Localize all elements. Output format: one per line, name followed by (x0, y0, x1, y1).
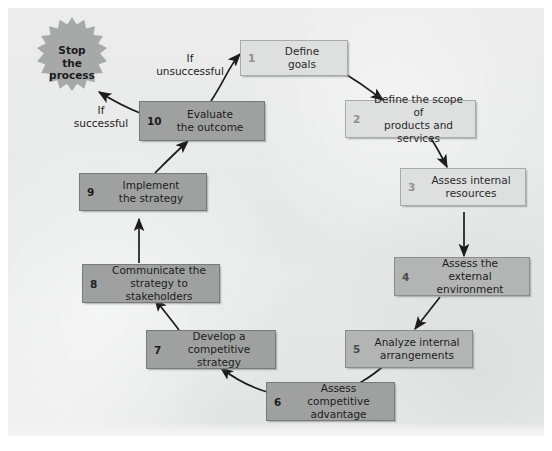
node-2[interactable]: 2 Define the scope of products and servi… (345, 100, 476, 138)
edge-label-if-successful: If successful (62, 104, 140, 129)
node-2-label: Define the scope of products and service… (346, 93, 475, 145)
node-3[interactable]: 3 Assess internal resources (400, 168, 526, 206)
node-1[interactable]: 1 Define goals (240, 40, 348, 76)
node-9[interactable]: 9 Implement the strategy (79, 173, 207, 211)
node-10[interactable]: 10 Evaluate the outcome (139, 101, 265, 141)
node-9-number: 9 (87, 186, 94, 198)
node-6-number: 6 (274, 396, 281, 408)
node-5-number: 5 (353, 343, 360, 355)
node-5[interactable]: 5 Analyze internal arrangements (345, 330, 473, 368)
node-10-label: Evaluate the outcome (155, 108, 250, 134)
node-3-number: 3 (408, 181, 415, 193)
node-8-number: 8 (90, 278, 97, 290)
node-7[interactable]: 7 Develop a competitive strategy (146, 330, 276, 369)
node-10-number: 10 (147, 115, 162, 127)
node-7-label: Develop a competitive strategy (147, 330, 275, 369)
stop-process-label: Stop the process (26, 17, 118, 109)
node-5-label: Analyze internal arrangements (353, 336, 466, 362)
node-4[interactable]: 4 Assess the external environment (394, 257, 530, 296)
node-6-label: Assess competitive advantage (267, 382, 394, 421)
node-2-number: 2 (353, 113, 360, 125)
node-6[interactable]: 6 Assess competitive advantage (266, 382, 395, 421)
node-1-label: Define goals (263, 45, 325, 71)
node-4-number: 4 (402, 271, 409, 283)
node-9-label: Implement the strategy (97, 179, 189, 205)
node-7-number: 7 (154, 344, 161, 356)
node-4-label: Assess the external environment (395, 257, 529, 296)
node-8[interactable]: 8 Communicate the strategy to stakeholde… (82, 264, 220, 303)
diagram-figure: Stop the process If unsuccessful If succ… (0, 0, 552, 451)
node-3-label: Assess internal resources (409, 174, 516, 200)
node-1-number: 1 (248, 52, 255, 64)
node-8-label: Communicate the strategy to stakeholders (83, 264, 219, 303)
edge-label-if-unsuccessful: If unsuccessful (150, 52, 230, 77)
